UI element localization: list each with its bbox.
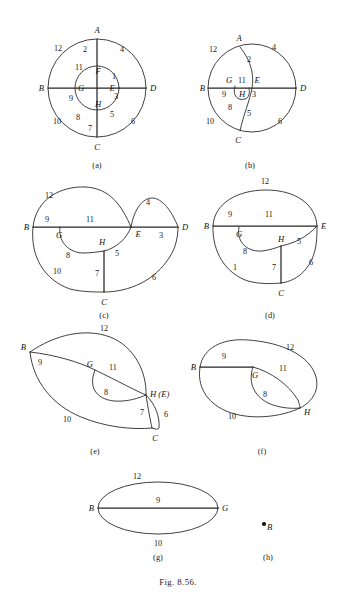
edge-label-g-12: 12 bbox=[133, 472, 141, 481]
edge-label-a-6: 6 bbox=[131, 117, 135, 126]
subfigure-f: B G H 8 9 10 11 12 (f) bbox=[191, 340, 317, 456]
caption-e: (e) bbox=[90, 447, 100, 456]
arc-6-d bbox=[281, 226, 317, 283]
arc-4-c bbox=[131, 198, 178, 227]
edge-label-a-11: 11 bbox=[75, 63, 83, 72]
edge-label-e-11: 11 bbox=[109, 363, 117, 372]
caption-a: (a) bbox=[92, 161, 102, 170]
edge-label-d-5: 5 bbox=[297, 237, 301, 246]
edge-label-a-1: 1 bbox=[112, 72, 116, 81]
edge-label-b-5: 5 bbox=[247, 109, 251, 118]
edge-label-d-1: 1 bbox=[233, 263, 237, 272]
arc-8-e bbox=[92, 370, 146, 401]
arc-8-f bbox=[251, 367, 300, 408]
node-d-E: E bbox=[320, 221, 327, 231]
node-b-G: G bbox=[226, 75, 233, 85]
edge-label-f-10: 10 bbox=[228, 412, 236, 421]
node-h-B: B bbox=[267, 522, 273, 532]
edge-label-c-5: 5 bbox=[115, 249, 119, 258]
caption-g: (g) bbox=[153, 553, 163, 562]
node-e-C: C bbox=[152, 433, 158, 443]
edge-label-b-6: 6 bbox=[278, 117, 282, 126]
edge-label-b-3: 3 bbox=[252, 90, 256, 99]
node-c-D: D bbox=[181, 222, 189, 232]
edge-label-b-12: 12 bbox=[209, 45, 217, 54]
edge-label-a-10: 10 bbox=[53, 117, 61, 126]
edge-label-e-8: 8 bbox=[104, 388, 108, 397]
edge-label-c-11: 11 bbox=[86, 215, 94, 224]
node-a-C: C bbox=[94, 142, 100, 152]
edge-label-e-12: 12 bbox=[100, 324, 108, 333]
edge-label-d-12: 12 bbox=[261, 177, 269, 186]
edge-label-e-10: 10 bbox=[63, 415, 71, 424]
edge-label-g-9: 9 bbox=[156, 496, 160, 505]
edge-label-b-2: 2 bbox=[247, 55, 251, 64]
edge-label-b-9: 9 bbox=[222, 90, 226, 99]
node-e-HE: H (E) bbox=[149, 389, 169, 399]
node-a-G: G bbox=[78, 83, 85, 93]
node-c-B: B bbox=[24, 222, 30, 232]
figure-caption: Fig. 8.56. bbox=[159, 577, 197, 587]
edge-label-g-10: 10 bbox=[154, 539, 162, 548]
edge-label-e-7: 7 bbox=[140, 408, 144, 417]
node-a-D: D bbox=[149, 83, 157, 93]
edge-label-c-9: 9 bbox=[45, 215, 49, 224]
node-b-H: H bbox=[238, 89, 246, 99]
node-b-E: E bbox=[253, 75, 260, 85]
edge-label-a-12: 12 bbox=[54, 44, 62, 53]
subfigure-e: B C G H (E) 6 7 8 9 10 11 12 (e) bbox=[21, 324, 170, 456]
edge-label-b-8: 8 bbox=[228, 103, 232, 112]
caption-f: (f) bbox=[258, 447, 267, 456]
edge-label-d-8: 8 bbox=[243, 247, 247, 256]
arc-12-f bbox=[200, 340, 317, 408]
node-b-B: B bbox=[200, 83, 206, 93]
edge-label-c-4: 4 bbox=[146, 198, 150, 207]
edge-label-f-12: 12 bbox=[286, 343, 294, 352]
node-c-G: G bbox=[56, 230, 63, 240]
node-b-A: A bbox=[235, 33, 242, 43]
node-d-C: C bbox=[278, 288, 284, 298]
edge-label-f-9: 9 bbox=[222, 352, 226, 361]
edge-label-d-6: 6 bbox=[309, 258, 313, 267]
subfigure-h: B (h) bbox=[262, 522, 273, 562]
arc-12-d bbox=[213, 190, 317, 226]
edge-label-a-2: 2 bbox=[83, 45, 87, 54]
subfigure-g: B G 9 10 12 (g) bbox=[89, 472, 229, 562]
edge-label-d-11: 11 bbox=[265, 210, 273, 219]
node-g-B: B bbox=[89, 503, 95, 513]
node-d-G: G bbox=[236, 229, 243, 239]
edge-label-f-11: 11 bbox=[279, 364, 287, 373]
edge-label-c-12: 12 bbox=[45, 191, 53, 200]
edge-label-b-10: 10 bbox=[206, 117, 214, 126]
caption-b: (b) bbox=[245, 161, 255, 170]
edge-label-a-3: 3 bbox=[114, 92, 118, 101]
arc-6-c bbox=[104, 227, 178, 292]
edge-label-c-10: 10 bbox=[53, 267, 61, 276]
edge-label-a-7: 7 bbox=[88, 124, 92, 133]
edge-label-a-8: 8 bbox=[76, 113, 80, 122]
node-f-B: B bbox=[191, 362, 197, 372]
node-e-G: G bbox=[87, 359, 94, 369]
arc-10-f bbox=[199, 367, 300, 417]
node-f-H: H bbox=[303, 407, 311, 417]
node-c-H: H bbox=[98, 237, 106, 247]
subfigure-a: A B C D E F G H 1 2 3 4 5 6 7 8 9 10 11 … bbox=[39, 25, 157, 170]
arc-7-e bbox=[146, 395, 152, 428]
subfigure-d: B C E G H 1 5 6 7 8 9 11 12 (d) bbox=[204, 177, 327, 320]
edge-label-d-9: 9 bbox=[228, 210, 232, 219]
caption-d: (d) bbox=[265, 311, 275, 320]
edge-label-b-11: 11 bbox=[238, 76, 246, 85]
node-d-H: H bbox=[277, 234, 285, 244]
node-a-B: B bbox=[39, 83, 45, 93]
subfigure-c: B C D E G H 3 4 5 6 7 8 9 10 11 12 (c) bbox=[24, 187, 189, 320]
edge-label-a-5: 5 bbox=[110, 110, 114, 119]
caption-c: (c) bbox=[99, 311, 109, 320]
caption-h: (h) bbox=[263, 553, 273, 562]
node-b-C: C bbox=[235, 135, 241, 145]
edge-label-c-3: 3 bbox=[159, 231, 163, 240]
edge-label-a-4: 4 bbox=[120, 45, 124, 54]
arc-6-e bbox=[146, 395, 159, 429]
edge-label-b-4: 4 bbox=[272, 43, 276, 52]
edge-label-c-6: 6 bbox=[152, 273, 156, 282]
arc-8-c bbox=[60, 227, 104, 253]
